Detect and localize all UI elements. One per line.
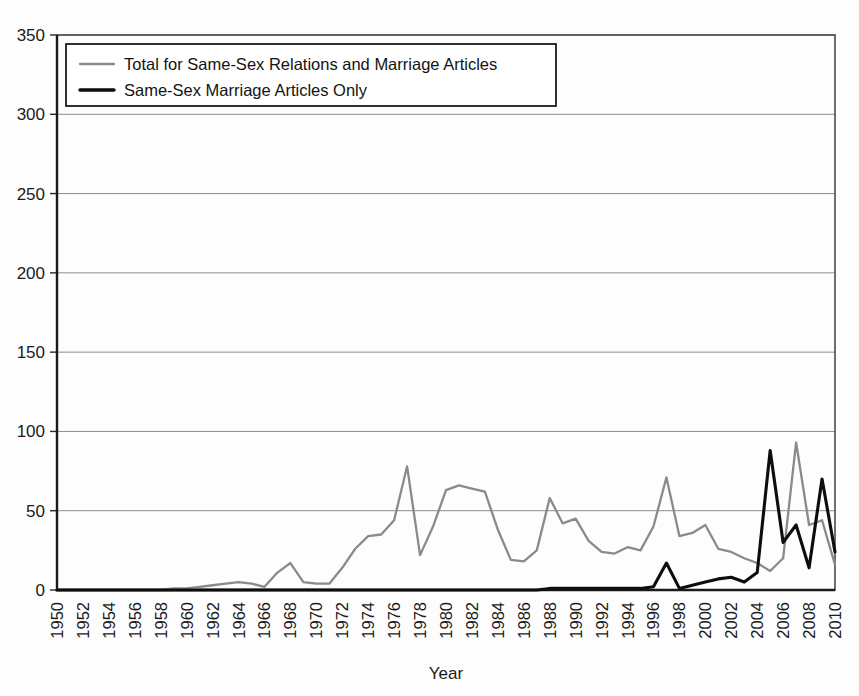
x-tick-label: 1954 — [100, 602, 118, 639]
series-line-2 — [57, 450, 835, 590]
y-tick-label: 100 — [17, 422, 45, 441]
x-tick-label: 1980 — [437, 602, 455, 639]
legend: Total for Same-Sex Relations and Marriag… — [66, 44, 556, 106]
line-chart: 050100150200250300350 195019521954195619… — [0, 0, 859, 696]
x-tick-label: 1972 — [333, 602, 351, 639]
x-tick-label: 1984 — [489, 602, 507, 639]
x-tick-label: 1986 — [515, 602, 533, 639]
y-axis-tick-labels: 050100150200250300350 — [17, 26, 57, 600]
y-tick-label: 0 — [36, 581, 45, 600]
x-tick-label: 2008 — [800, 602, 818, 639]
x-tick-label: 1952 — [74, 602, 92, 639]
plot-frame — [57, 35, 835, 590]
y-tick-label: 300 — [17, 105, 45, 124]
x-tick-label: 1990 — [567, 602, 585, 639]
y-tick-label: 50 — [26, 502, 45, 521]
y-tick-label: 150 — [17, 343, 45, 362]
x-tick-label: 1964 — [230, 602, 248, 639]
x-tick-label: 1982 — [463, 602, 481, 639]
x-tick-label: 1998 — [670, 602, 688, 639]
x-tick-label: 1960 — [178, 602, 196, 639]
x-tick-label: 2000 — [696, 602, 714, 639]
x-tick-label: 1950 — [48, 602, 66, 639]
x-tick-label: 1976 — [385, 602, 403, 639]
x-axis-title: Year — [429, 664, 464, 683]
y-tick-label: 350 — [17, 26, 45, 45]
x-tick-label: 2002 — [722, 602, 740, 639]
x-tick-label: 1988 — [541, 602, 559, 639]
x-axis-tick-labels: 1950195219541956195819601962196419661968… — [48, 602, 844, 639]
series-line-1 — [57, 443, 835, 590]
chart-container: 050100150200250300350 195019521954195619… — [0, 0, 859, 696]
x-tick-label: 1974 — [359, 602, 377, 639]
x-tick-label: 1962 — [204, 602, 222, 639]
x-tick-label: 1968 — [281, 602, 299, 639]
x-tick-label: 1994 — [619, 602, 637, 639]
x-tick-label: 1996 — [644, 602, 662, 639]
x-tick-label: 1956 — [126, 602, 144, 639]
x-tick-label: 2006 — [774, 602, 792, 639]
axis-lines — [57, 35, 835, 590]
legend-label-1: Total for Same-Sex Relations and Marriag… — [124, 55, 497, 73]
x-tick-label: 1978 — [411, 602, 429, 639]
y-tick-label: 250 — [17, 185, 45, 204]
legend-label-2: Same-Sex Marriage Articles Only — [124, 81, 368, 99]
x-tick-label: 1992 — [593, 602, 611, 639]
x-tick-label: 2010 — [826, 602, 844, 639]
x-tick-label: 2004 — [748, 602, 766, 639]
plot-border — [57, 35, 835, 590]
y-tick-label: 200 — [17, 264, 45, 283]
series-group — [57, 443, 835, 590]
x-tick-label: 1970 — [307, 602, 325, 639]
x-tick-label: 1958 — [152, 602, 170, 639]
x-tick-label: 1966 — [255, 602, 273, 639]
